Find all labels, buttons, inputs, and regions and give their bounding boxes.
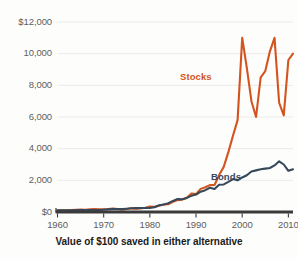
y-tick-label: 8,000 bbox=[0, 79, 52, 90]
series-label-stocks: Stocks bbox=[180, 71, 212, 82]
x-axis-ticks bbox=[58, 214, 289, 218]
series-line-stocks bbox=[58, 38, 294, 211]
y-tick-label: 2,000 bbox=[0, 174, 52, 185]
x-tick-label: 2000 bbox=[220, 219, 264, 230]
y-tick-label: 10,000 bbox=[0, 47, 52, 58]
x-tick-label: 1960 bbox=[36, 219, 80, 230]
x-tick-label: 2010 bbox=[266, 219, 298, 230]
x-tick-label: 1990 bbox=[174, 219, 218, 230]
y-tick-label: $0 bbox=[0, 206, 52, 217]
series-lines bbox=[58, 38, 294, 211]
series-label-bonds: Bonds bbox=[211, 171, 241, 182]
chart-container: $02,0004,0006,0008,00010,000$12,000 1960… bbox=[0, 0, 298, 259]
series-line-bonds bbox=[58, 161, 294, 210]
x-tick-label: 1970 bbox=[82, 219, 126, 230]
y-tick-label: 4,000 bbox=[0, 142, 52, 153]
chart-caption: Value of $100 saved in either alternativ… bbox=[0, 236, 298, 247]
y-tick-label: 6,000 bbox=[0, 111, 52, 122]
x-tick-label: 1980 bbox=[128, 219, 172, 230]
y-tick-label: $12,000 bbox=[0, 16, 52, 27]
